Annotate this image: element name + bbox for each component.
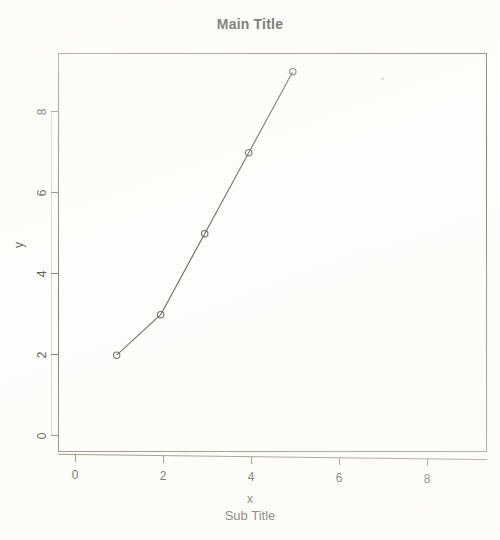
y-tick-label-4: 4 bbox=[35, 262, 49, 286]
y-tick-label-0: 0 bbox=[35, 424, 49, 448]
x-axis-ticks bbox=[58, 454, 487, 466]
y-axis-ticks bbox=[51, 112, 58, 436]
y-tick-label-2: 2 bbox=[35, 343, 49, 367]
x-tick-label-6: 6 bbox=[324, 471, 354, 485]
x-tick-label-0: 0 bbox=[60, 468, 90, 482]
x-tick-label-2: 2 bbox=[148, 469, 178, 483]
y-tick-label-6: 6 bbox=[35, 181, 49, 205]
x-axis-label: x bbox=[0, 492, 500, 506]
x-tick-label-8: 8 bbox=[412, 472, 442, 486]
sub-title: Sub Title bbox=[0, 508, 500, 523]
scan-artifact-speck bbox=[381, 77, 384, 80]
x-tick-label-4: 4 bbox=[236, 470, 266, 484]
y-tick-label-8: 8 bbox=[35, 100, 49, 124]
data-line bbox=[117, 72, 293, 355]
y-axis-label: y bbox=[12, 232, 26, 258]
plot-page: Main Title bbox=[0, 0, 500, 540]
plot-canvas bbox=[0, 0, 500, 540]
data-point-markers bbox=[113, 69, 296, 359]
plot-box-frame bbox=[59, 54, 487, 452]
